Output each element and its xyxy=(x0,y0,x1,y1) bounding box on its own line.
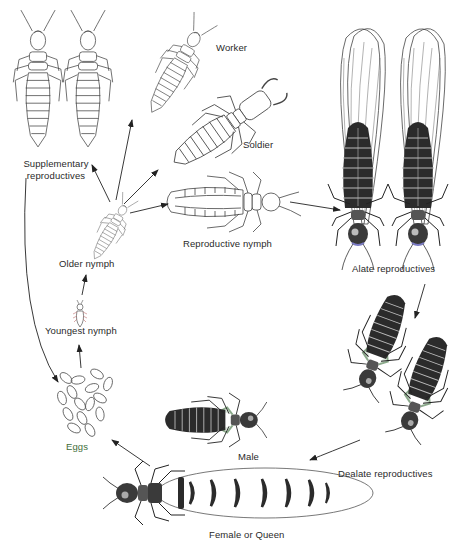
label-dealate-reproductives: Dealate reproductives xyxy=(338,468,433,480)
label-youngest-nymph: Youngest nymph xyxy=(45,325,117,337)
label-older-nymph: Older nymph xyxy=(59,258,114,270)
older-nymph-illustration xyxy=(83,190,142,265)
label-eggs: Eggs xyxy=(66,441,88,453)
label-female-or-queen: Female or Queen xyxy=(209,529,284,541)
label-worker: Worker xyxy=(216,42,247,54)
arrow-queen-to-eggs xyxy=(112,440,150,466)
eggs-illustration xyxy=(56,367,114,438)
arrow-alate-to-dealate xyxy=(415,284,425,318)
alate-reproductive-illustration-2 xyxy=(388,29,448,270)
label-alate-reproductives: Alate reproductives xyxy=(352,263,435,275)
label-supplementary-line-1: Supplementary xyxy=(8,158,104,170)
queen-illustration xyxy=(103,461,373,525)
arrow-older-nymph-to-reproductive-nymph xyxy=(130,204,168,213)
youngest-nymph-illustration xyxy=(73,300,87,327)
arrow-older-nymph-to-worker xyxy=(116,120,132,200)
arrow-eggs-to-youngest-nymph xyxy=(79,345,81,368)
arrow-supplementary-to-eggs xyxy=(25,178,58,382)
supplementary-reproductive-illustration-1 xyxy=(13,10,62,147)
label-soldier: Soldier xyxy=(243,139,273,151)
alate-reproductive-illustration-1 xyxy=(328,29,388,270)
supplementary-reproductive-illustration-2 xyxy=(63,10,112,147)
worker-illustration xyxy=(135,9,223,122)
arrow-older-nymph-to-soldier xyxy=(124,170,158,204)
label-supplementary-reproductives: Supplementary reproductives xyxy=(8,158,104,182)
label-reproductive-nymph: Reproductive nymph xyxy=(183,238,272,250)
arrow-youngest-to-older-nymph xyxy=(82,275,86,295)
reproductive-nymph-illustration xyxy=(167,172,301,232)
arrow-dealate-to-queen xyxy=(310,440,360,460)
label-supplementary-line-2: reproductives xyxy=(8,170,104,182)
male-illustration xyxy=(165,393,267,447)
label-male: Male xyxy=(238,451,259,463)
termite-life-cycle-diagram: Supplementary reproductives Worker Soldi… xyxy=(0,0,467,543)
arrow-reproductive-nymph-to-alate xyxy=(290,202,340,210)
